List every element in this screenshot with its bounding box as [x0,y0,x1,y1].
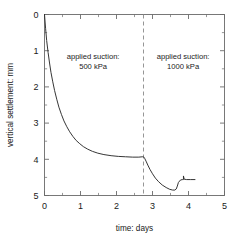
x-tick-label: 1 [78,201,83,211]
x-tick-label: 5 [222,201,227,211]
stage-1-annotation-line1: applied suction: [67,52,120,61]
x-tick-label: 0 [42,201,47,211]
x-tick-label: 4 [186,201,191,211]
y-tick-label: 3 [33,118,38,128]
x-tick-label: 2 [114,201,119,211]
x-axis-title: time: days [116,224,153,233]
stage-1-annotation-line2: 500 kPa [79,62,108,71]
y-tick-label: 5 [33,191,38,201]
y-axis-title: vertical settlement: mm [6,63,15,147]
y-tick-label: 4 [33,155,38,165]
settlement-vs-time-chart: 012345 012345 applied suction: 500 kPa a… [0,0,236,240]
x-tick-label: 3 [150,201,155,211]
y-tick-label: 2 [33,82,38,92]
y-tick-label: 0 [33,10,38,20]
stage-2-annotation-line1: applied suction: [157,52,210,61]
stage-2-annotation-line2: 1000 kPa [167,62,200,71]
y-tick-label: 1 [33,46,38,56]
